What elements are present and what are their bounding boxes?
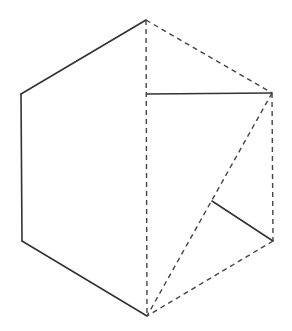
edge-left-line — [21, 94, 22, 241]
hexagon-diagram — [0, 0, 292, 331]
dashed-lines — [146, 20, 273, 316]
edge-right-line — [272, 93, 273, 241]
vertical-center-line — [146, 20, 147, 316]
edge-upper-left-line — [21, 20, 146, 94]
edge-lower-left-line — [22, 241, 147, 316]
diagonal-line — [147, 93, 272, 316]
edge-lower-right-line — [147, 241, 273, 316]
inner-fold-line — [212, 201, 273, 241]
edge-upper-right-line — [146, 20, 272, 93]
horizontal-fold-line — [147, 93, 272, 94]
